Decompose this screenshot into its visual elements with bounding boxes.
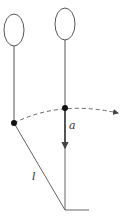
right-balloon [55, 8, 75, 40]
length-label: l [32, 170, 36, 183]
acceleration-label: a [69, 119, 76, 132]
left-balloon [4, 14, 24, 46]
left-attachment-dot [11, 120, 17, 126]
string-length-line [14, 123, 65, 210]
pendulum-diagram: a l [0, 0, 129, 216]
right-attachment-dot [62, 105, 68, 111]
